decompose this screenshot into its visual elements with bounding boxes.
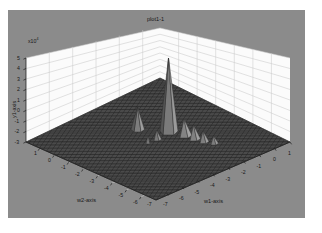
w1-tick-2: -5 — [195, 190, 200, 195]
w1-tick-7: 0 — [273, 157, 276, 162]
w1-tick-3: -4 — [210, 183, 215, 188]
w1-tick-1: -6 — [179, 196, 184, 201]
w2-tick-2: -1 — [61, 165, 66, 170]
y-axis-exponent-power: 4 — [36, 37, 38, 41]
w1-tick-5: -2 — [241, 170, 246, 175]
w2-tick-6: -5 — [119, 193, 124, 198]
w2-tick-5: -4 — [104, 186, 109, 191]
y-axis-exponent: x104 — [28, 38, 38, 44]
y-tick-7: -2 — [15, 129, 20, 134]
w1-axis-label: w1-axis — [204, 199, 223, 205]
y-tick-4: 1 — [17, 98, 20, 103]
w1-tick-6: -1 — [257, 164, 262, 169]
y-axis-label: y1-axis — [12, 101, 17, 118]
w2-tick-4: -3 — [90, 179, 95, 184]
y-tick-0: 5 — [17, 56, 20, 61]
w2-tick-8: -7 — [147, 202, 152, 207]
plot-title: plot1-1 — [147, 17, 164, 23]
plot-canvas — [8, 10, 305, 218]
y-tick-2: 3 — [17, 77, 20, 82]
w2-tick-1: 0 — [48, 158, 51, 163]
y-tick-3: 2 — [17, 87, 20, 92]
y-tick-1: 4 — [17, 66, 20, 71]
y-tick-8: -3 — [15, 140, 20, 145]
w1-tick-4: -3 — [226, 177, 231, 182]
w1-tick-0: -7 — [163, 202, 168, 207]
w2-tick-7: -6 — [133, 200, 138, 205]
w2-tick-3: -2 — [75, 172, 80, 177]
figure-panel: plot1-1 x104 5 4 3 2 1 0 -1 -2 -3 y1-axi… — [8, 10, 305, 218]
y-tick-5: 0 — [17, 108, 20, 113]
surface-axes: plot1-1 x104 5 4 3 2 1 0 -1 -2 -3 y1-axi… — [8, 10, 305, 218]
w2-tick-0: 1 — [34, 151, 37, 156]
w2-axis-label: w2-axis — [77, 198, 96, 204]
w1-tick-8: 1 — [288, 151, 291, 156]
y-tick-6: -1 — [15, 119, 20, 124]
